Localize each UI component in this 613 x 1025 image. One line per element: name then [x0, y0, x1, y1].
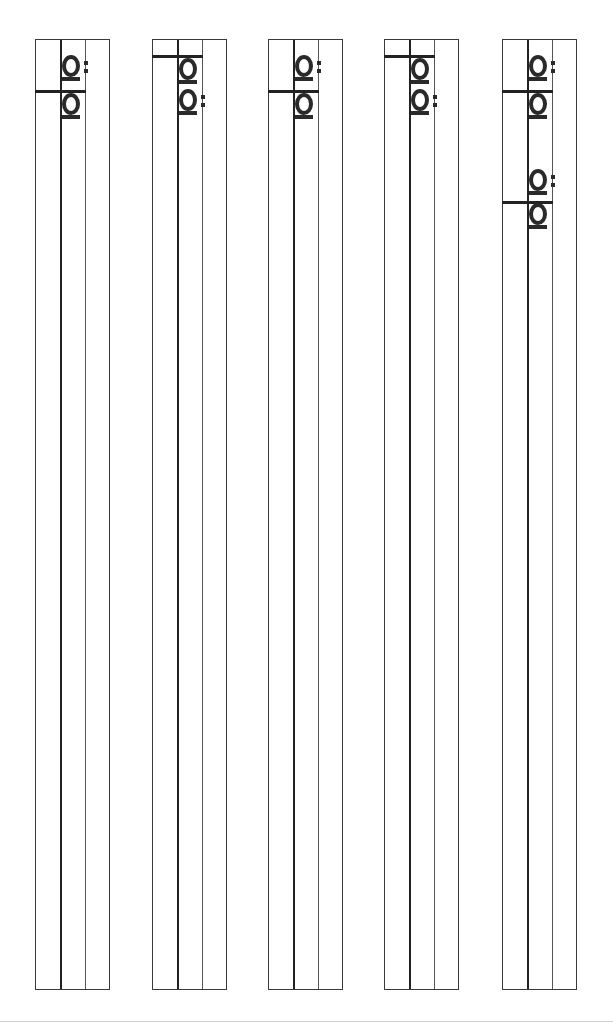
letter-bowl: [62, 93, 80, 115]
baseline-rule: [409, 40, 411, 989]
letter-a: [62, 91, 86, 121]
letter-a: [411, 56, 435, 86]
letter-a-umlaut: [529, 167, 553, 197]
letter-a: [529, 201, 553, 231]
letter-stem: [62, 77, 80, 81]
umlaut-dot: [201, 95, 205, 99]
baseline-rule: [177, 40, 179, 989]
umlaut-dot: [84, 61, 88, 65]
letter-bowl: [411, 58, 429, 80]
letter-bowl: [179, 89, 197, 111]
letter-stem: [529, 77, 547, 81]
guide-rule: [85, 40, 86, 989]
letter-stem: [179, 80, 197, 84]
umlaut-dot: [551, 61, 555, 65]
letter-a: [529, 91, 553, 121]
practice-strip-5: [502, 39, 577, 990]
letter-stem: [529, 115, 547, 119]
letter-stem: [529, 191, 547, 195]
letter-stem: [411, 111, 429, 115]
practice-strip-2: [152, 39, 227, 990]
letter-a-umlaut: [411, 87, 435, 117]
page-bottom-edge: [0, 1021, 613, 1022]
letter-bowl: [529, 93, 547, 115]
umlaut-dot: [551, 175, 555, 179]
letter-stem: [529, 225, 547, 229]
umlaut-dot: [201, 103, 205, 107]
practice-strip-3: [268, 39, 343, 990]
letter-bowl: [179, 58, 197, 80]
letter-bowl: [295, 93, 313, 115]
practice-strip-1: [35, 39, 110, 990]
letter-stem: [179, 111, 197, 115]
guide-rule: [202, 40, 203, 989]
guide-rule: [434, 40, 435, 989]
practice-strip-4: [384, 39, 459, 990]
umlaut-dot: [317, 69, 321, 73]
baseline-rule: [60, 40, 62, 989]
letter-bowl: [529, 55, 547, 77]
letter-a-umlaut: [529, 53, 553, 83]
umlaut-dot: [551, 69, 555, 73]
letter-a: [179, 56, 203, 86]
umlaut-dot: [433, 103, 437, 107]
umlaut-dot: [433, 95, 437, 99]
letter-stem: [295, 77, 313, 81]
letter-a-umlaut: [62, 53, 86, 83]
letter-bowl: [62, 55, 80, 77]
letter-bowl: [529, 203, 547, 225]
letter-bowl: [529, 169, 547, 191]
letter-a-umlaut: [295, 53, 319, 83]
umlaut-dot: [551, 183, 555, 187]
letter-a: [295, 91, 319, 121]
guide-rule: [318, 40, 319, 989]
letter-stem: [62, 115, 80, 119]
letter-bowl: [411, 89, 429, 111]
umlaut-dot: [317, 61, 321, 65]
letter-stem: [411, 80, 429, 84]
letter-a-umlaut: [179, 87, 203, 117]
letter-stem: [295, 115, 313, 119]
umlaut-dot: [84, 69, 88, 73]
baseline-rule: [293, 40, 295, 989]
letter-bowl: [295, 55, 313, 77]
